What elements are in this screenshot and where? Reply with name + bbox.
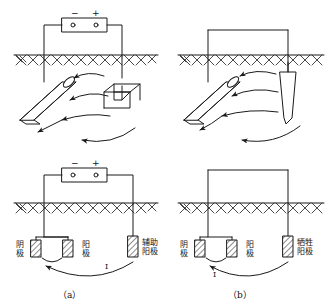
plus-sign-upper-a: +	[92, 8, 100, 18]
ground-hatch-lower-a	[16, 203, 156, 213]
cathode-block-b	[195, 240, 205, 257]
buried-pipe-b	[184, 75, 240, 124]
label-cathode-b: 阴 极	[175, 240, 193, 258]
wire-left-upper-a	[44, 25, 62, 57]
label-sacrificial-anode-b: 牺牲 阳极	[297, 238, 313, 256]
electrode-bracket-b	[200, 205, 232, 237]
current-arc-b	[210, 262, 288, 276]
ground-hatch-b	[180, 55, 322, 65]
label-cathode-a: 阴 极	[11, 240, 29, 258]
dc-power-source-upper	[62, 18, 107, 32]
label-anode-a: 阳 极	[77, 240, 95, 258]
minus-sign-lower-a: −	[71, 158, 79, 168]
panel-a-circuit	[14, 168, 158, 276]
current-arc-a	[46, 262, 133, 276]
ground-hatch-lower-b	[180, 203, 322, 213]
panel-b-circuit	[178, 170, 324, 276]
wire-right-upper-a	[107, 25, 122, 57]
current-label-a: I	[105, 262, 108, 271]
anode-block-b	[227, 240, 237, 257]
anode-block-a	[63, 240, 73, 257]
inner-arc-b	[206, 258, 226, 262]
panel-a-upper	[14, 18, 158, 142]
ground-hatch-a	[16, 55, 156, 65]
minus-sign-upper-a: −	[71, 8, 79, 18]
current-label-b: I	[213, 270, 216, 279]
electrode-bracket-a	[36, 205, 68, 237]
panel-b-upper	[178, 30, 324, 141]
plus-sign-lower-a: +	[92, 158, 100, 168]
buried-pipe-a	[20, 75, 76, 124]
wire-right-lower-a	[107, 175, 133, 205]
caption-b: （b）	[228, 288, 252, 301]
dc-power-source-lower	[62, 168, 107, 182]
cathode-block-a	[31, 240, 41, 257]
sacrificial-anode-rod-b	[280, 62, 296, 124]
caption-a: （a）	[58, 288, 81, 301]
auxiliary-anode-block-a	[128, 236, 138, 257]
wire-left-lower-a	[44, 175, 62, 205]
inner-arc-a	[42, 258, 62, 262]
label-anode-b: 阳 极	[241, 240, 259, 258]
sacrificial-anode-block-b	[283, 236, 293, 257]
cathodic-protection-figure	[0, 0, 330, 308]
auxiliary-anode-rod-a	[104, 84, 140, 108]
label-auxiliary-anode-a: 辅助 阳极	[142, 238, 158, 256]
